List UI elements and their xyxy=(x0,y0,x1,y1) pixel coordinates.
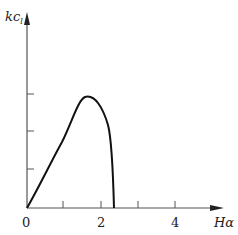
x-ticks xyxy=(63,201,175,208)
y-ticks xyxy=(27,94,34,169)
y-axis-arrow-icon xyxy=(24,12,30,25)
x-tick-label-4: 4 xyxy=(171,215,179,230)
x-tick-label-2: 2 xyxy=(97,215,105,230)
x-axis-arrow-icon xyxy=(210,205,224,211)
x-tick-label-0: 0 xyxy=(22,215,30,230)
chart: kcl 0 2 4 Hα xyxy=(0,0,238,235)
data-curve xyxy=(27,97,114,208)
x-axis-label: Hα xyxy=(213,215,234,230)
y-axis-label: kcl xyxy=(5,9,23,26)
